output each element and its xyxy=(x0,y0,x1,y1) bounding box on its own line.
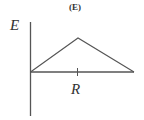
diagram-panel-e: (E) E R xyxy=(0,0,144,120)
triangle-curve xyxy=(31,38,135,72)
plot-area xyxy=(0,0,144,120)
